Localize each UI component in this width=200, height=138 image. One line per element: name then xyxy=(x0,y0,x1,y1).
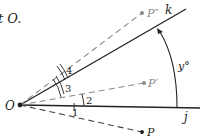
rotation-arc xyxy=(160,32,177,107)
point-p xyxy=(140,130,144,134)
point-p-label: P xyxy=(146,126,155,138)
point-p-prime-label: P′ xyxy=(147,77,158,90)
ray-j-label: j xyxy=(181,110,188,124)
angle-2-arc xyxy=(82,94,84,106)
angle-4-arc xyxy=(57,66,65,80)
angle-1-label: 1 xyxy=(72,107,78,118)
point-p-double-prime-label: P″ xyxy=(146,7,159,20)
point-p-double-prime xyxy=(140,11,144,15)
origin-point xyxy=(18,103,23,108)
rotation-label: y° xyxy=(177,60,190,73)
ray-k-label: k xyxy=(165,3,172,17)
ray-p-double-prime xyxy=(20,13,142,105)
caption-fragment: t O. xyxy=(0,11,21,26)
point-p-prime xyxy=(142,81,146,85)
origin-label: O xyxy=(5,99,15,113)
rotation-arrowhead-icon xyxy=(157,28,163,34)
ray-p xyxy=(20,105,142,132)
angle-2-label: 2 xyxy=(86,95,92,106)
angle-4-label: 4 xyxy=(66,65,72,76)
angle-3-label: 3 xyxy=(65,83,71,94)
rotation-diagram: t O. k j P″ P′ P O 1 2 3 4 y° xyxy=(0,0,200,138)
ray-j xyxy=(20,105,200,108)
